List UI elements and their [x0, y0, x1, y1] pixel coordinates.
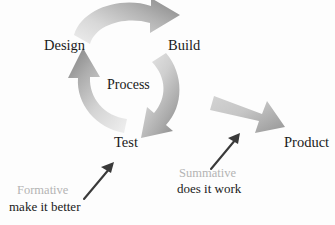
- node-label-product: Product: [284, 135, 329, 150]
- formative-pointer-arrow: [84, 162, 114, 199]
- annotation-subtitle-summative: does it work: [177, 182, 241, 195]
- cycle-arrow-design-to-build: [74, 0, 180, 44]
- cycle-arrow-build-to-test: [141, 53, 180, 138]
- diagram-canvas: Design Build Test Product Process Format…: [0, 0, 335, 225]
- output-arrow-to-product: [210, 96, 285, 133]
- summative-pointer-arrow: [211, 133, 240, 169]
- annotation-title-summative: Summative: [179, 167, 236, 180]
- node-label-design: Design: [44, 38, 85, 53]
- node-label-build: Build: [168, 38, 200, 53]
- center-label-process: Process: [107, 78, 150, 92]
- annotation-title-formative: Formative: [17, 184, 68, 197]
- node-label-test: Test: [114, 135, 138, 150]
- annotation-subtitle-formative: make it better: [9, 200, 80, 213]
